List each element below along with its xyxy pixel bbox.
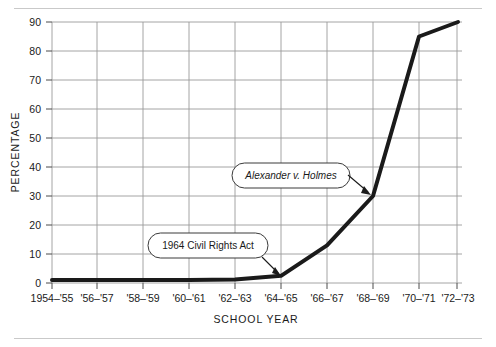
y-tick-label-10: 10	[29, 248, 41, 260]
x-tick-label-58-59: '58–'59	[126, 292, 159, 304]
top-divider-rule	[14, 8, 482, 9]
x-axis-title: SCHOOL YEAR	[213, 313, 298, 325]
annotation-alexander-v-holmes: Alexander v. Holmes	[232, 163, 371, 195]
x-tick-label-66-67: '66–'67	[310, 292, 343, 304]
annotation-label-alexander-v-holmes: Alexander v. Holmes	[244, 170, 337, 181]
y-tick-label-30: 30	[29, 190, 41, 202]
x-tick-label-60-61: '60–'61	[172, 292, 205, 304]
y-axis-title: PERCENTAGE	[9, 112, 21, 193]
line-chart-svg: 90 80 70 60 50 40 30 20 10 0 PERCENTAGE	[0, 0, 496, 347]
y-tick-label-80: 80	[29, 45, 41, 57]
y-tick-label-90: 90	[29, 16, 41, 28]
bottom-divider-rule	[14, 338, 482, 339]
annotation-civil-rights-act: 1964 Civil Rights Act	[148, 233, 281, 276]
y-tick-label-50: 50	[29, 132, 41, 144]
x-tick-label-70-71: '70–'71	[402, 292, 435, 304]
y-axis-tick-labels: 90 80 70 60 50 40 30 20 10 0	[29, 16, 41, 289]
x-tick-label-1954-55: 1954–'55	[31, 292, 74, 304]
annotation-label-civil-rights-act: 1964 Civil Rights Act	[162, 240, 254, 251]
chart-figure: 90 80 70 60 50 40 30 20 10 0 PERCENTAGE	[0, 0, 496, 347]
x-tick-label-68-69: '68–'69	[356, 292, 389, 304]
x-axis-ticks	[52, 283, 457, 289]
x-tick-label-62-63: '62–'63	[218, 292, 251, 304]
x-tick-label-56-57: '56–'57	[80, 292, 113, 304]
y-tick-label-40: 40	[29, 161, 41, 173]
x-axis-tick-labels: 1954–'55 '56–'57 '58–'59 '60–'61 '62–'63…	[31, 292, 475, 304]
y-tick-label-20: 20	[29, 219, 41, 231]
x-tick-label-64-65: '64–'65	[264, 292, 297, 304]
y-tick-label-0: 0	[35, 277, 41, 289]
x-tick-label-72-73: '72–'73	[441, 292, 474, 304]
y-tick-label-60: 60	[29, 103, 41, 115]
y-tick-label-70: 70	[29, 74, 41, 86]
y-axis-ticks	[46, 22, 52, 283]
